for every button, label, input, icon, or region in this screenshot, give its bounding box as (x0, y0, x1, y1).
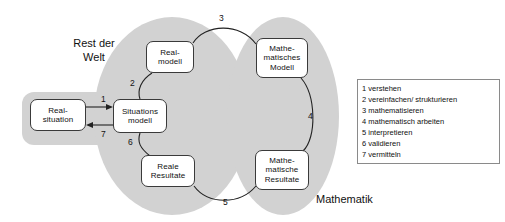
legend-item-4: 4 mathematisch arbeiten (362, 116, 499, 127)
legend-item-2: 2 vereinfachen/ strukturieren (362, 94, 499, 105)
modelling-cycle-diagram: Real- situation Situations modell Real- … (0, 0, 505, 222)
edge-label-5: 5 (223, 198, 228, 207)
node-real-modell-line2: modell (158, 57, 182, 67)
node-real-situation-line1: Real- (48, 106, 68, 116)
node-situationsmodell: Situations modell (113, 99, 167, 133)
edge-2-path (139, 73, 152, 99)
node-mathematisches-modell-line2: matisches (264, 53, 301, 63)
node-real-modell-line1: Real- (160, 48, 180, 58)
edge-1-arrow (86, 104, 113, 110)
node-real-modell: Real- modell (146, 41, 194, 73)
node-mathematische-resultate-line1: Mathe- (269, 156, 295, 166)
edge-label-1: 1 (101, 95, 106, 104)
edge-label-7: 7 (101, 130, 106, 139)
node-situationsmodell-line1: Situations (122, 107, 158, 117)
area-label-mathematik: Mathematik (316, 192, 406, 206)
node-reale-resultate-line1: Reale (157, 162, 178, 172)
node-mathematische-resultate: Mathe- matische Resultate (255, 150, 309, 190)
legend-item-6: 6 validieren (362, 138, 499, 149)
legend-box: 1 verstehen 2 vereinfachen/ strukturiere… (357, 79, 500, 164)
edge-label-2: 2 (130, 79, 135, 88)
edge-label-4: 4 (308, 112, 313, 121)
edge-7-arrow (86, 122, 113, 128)
node-mathematische-resultate-line3: Resultate (265, 175, 300, 185)
node-mathematisches-modell-line3: Modell (270, 63, 294, 73)
node-situationsmodell-line2: modell (128, 116, 152, 126)
node-mathematisches-modell: Mathe- matisches Modell (256, 38, 308, 78)
legend-item-1: 1 verstehen (362, 83, 499, 94)
legend-item-3: 3 mathematisieren (362, 105, 499, 116)
node-reale-resultate: Reale Resultate (141, 155, 195, 187)
edge-label-6: 6 (128, 138, 133, 147)
node-real-situation-line2: situation (43, 115, 74, 125)
node-real-situation: Real- situation (30, 99, 86, 131)
edge-3-path (193, 28, 256, 44)
legend-item-7: 7 vermitteln (362, 149, 499, 160)
node-mathematisches-modell-line1: Mathe- (269, 44, 295, 54)
node-reale-resultate-line2: Resultate (151, 171, 186, 181)
edge-6-path (139, 133, 150, 156)
legend-item-5: 5 interpretieren (362, 127, 499, 138)
node-mathematische-resultate-line2: matische (266, 165, 299, 175)
area-label-rest-der-welt: Rest der Welt (55, 36, 133, 64)
edge-label-3: 3 (219, 14, 224, 23)
